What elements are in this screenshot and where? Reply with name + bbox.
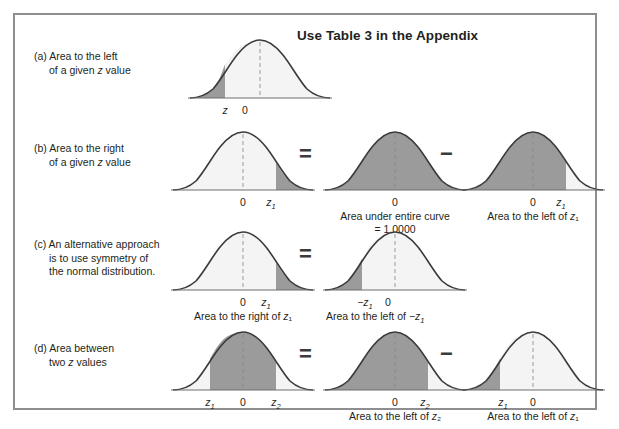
tick-label: 0 bbox=[530, 196, 536, 209]
tick-label: 0 bbox=[530, 396, 536, 409]
normal-curve-svg bbox=[185, 36, 335, 104]
row-a-label: (a) Area to the left of a given z value bbox=[34, 50, 204, 77]
curve-a-1: z 0 bbox=[185, 36, 335, 118]
equals-operator: = bbox=[299, 143, 312, 165]
minus-operator: − bbox=[440, 143, 453, 165]
curve-c-1: 0 z1 Area to the right of z₁ bbox=[168, 228, 318, 323]
curve-d-1: z1 0 z2 bbox=[168, 328, 318, 410]
tick-label: 0 bbox=[385, 296, 391, 309]
row-c: (c) An alternative approach is to use sy… bbox=[0, 226, 619, 326]
tick-label: 0 bbox=[240, 196, 246, 209]
tick-label: 0 bbox=[392, 396, 398, 409]
shade-dark-region bbox=[210, 332, 276, 390]
row-b: (b) Area to the right of a given z value… bbox=[0, 126, 619, 226]
normal-curve-svg bbox=[168, 128, 318, 196]
curve-d-2-caption: Area to the left of z₂ bbox=[320, 410, 470, 423]
shade-dark-region bbox=[276, 262, 313, 290]
normal-curve-svg bbox=[320, 228, 470, 296]
curve-b-1: 0 z1 bbox=[168, 128, 318, 210]
curve-c-1-caption: Area to the right of z₁ bbox=[168, 310, 318, 323]
minus-operator: − bbox=[440, 343, 453, 365]
row-d: (d) Area between two z values z1 0 z2 = bbox=[0, 326, 619, 421]
normal-curve-svg bbox=[168, 228, 318, 296]
tick-label: z bbox=[222, 104, 227, 117]
tick-label: 0 bbox=[242, 104, 248, 117]
normal-curve-svg bbox=[168, 328, 318, 396]
tick-row: 0 z1 bbox=[168, 196, 318, 210]
row-a: (a) Area to the left of a given z value … bbox=[0, 36, 619, 126]
shade-dark-region bbox=[276, 162, 313, 190]
tick-label: 0 bbox=[240, 296, 246, 309]
curve-b-3-caption: Area to the left of z₁ bbox=[458, 210, 608, 223]
curve-c-2: −z1 0 Area to the left of −z1 bbox=[320, 228, 470, 327]
curve-b-3: 0 z1 Area to the left of z₁ bbox=[458, 128, 608, 223]
row-d-label-line1: (d) Area between bbox=[34, 342, 114, 354]
tick-label: 0 bbox=[392, 196, 398, 209]
equals-operator: = bbox=[299, 243, 312, 265]
tick-row: z1 0 z2 bbox=[168, 396, 318, 410]
tick-row: z 0 bbox=[185, 104, 335, 118]
tick-label: z1 bbox=[266, 196, 275, 213]
row-b-label-line1: (b) Area to the right bbox=[34, 142, 124, 154]
tick-row: 0 bbox=[320, 196, 470, 210]
row-a-label-line2: of a given z value bbox=[34, 64, 204, 78]
curve-d-3: z1 0 Area to the left of z₁ bbox=[458, 328, 608, 423]
tick-label: 0 bbox=[240, 396, 246, 409]
tick-row: z1 0 bbox=[458, 396, 608, 410]
curve-d-3-caption: Area to the left of z₁ bbox=[458, 410, 608, 423]
curve-c-2-caption: Area to the left of −z1 bbox=[320, 310, 470, 327]
normal-curve-svg bbox=[458, 328, 608, 396]
tick-row: 0 z1 bbox=[168, 296, 318, 310]
row-a-label-line1: (a) Area to the left bbox=[34, 50, 117, 62]
shade-light-region-right bbox=[276, 362, 313, 390]
tick-row: 0 z2 bbox=[320, 396, 470, 410]
tick-row: −z1 0 bbox=[320, 296, 470, 310]
tick-row: 0 z1 bbox=[458, 196, 608, 210]
normal-curve-svg bbox=[458, 128, 608, 196]
tick-label: z1 bbox=[205, 396, 214, 413]
row-c-label-line1: (c) An alternative approach bbox=[34, 238, 160, 250]
tick-label: z2 bbox=[271, 396, 280, 413]
shade-light-region bbox=[566, 162, 603, 190]
equals-operator: = bbox=[299, 343, 312, 365]
